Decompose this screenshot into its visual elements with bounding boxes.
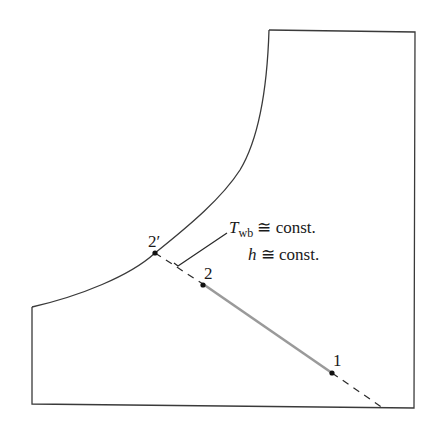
saturation-curve	[32, 30, 269, 307]
chart-outline	[32, 30, 415, 408]
point-label-1: 1	[333, 351, 342, 370]
dashed-line-upper	[155, 253, 203, 284]
state-point-2prime	[152, 250, 157, 255]
annotation-leader-line	[174, 233, 227, 266]
point-label-2prime: 2′	[148, 232, 160, 251]
annotation-twb: Twb ≅ const.	[229, 218, 316, 240]
state-point-2	[200, 282, 205, 287]
psychrometric-diagram: 2′ 2 1 Twb ≅ const. h ≅ const.	[0, 0, 443, 429]
process-line	[203, 284, 332, 373]
point-label-2: 2	[204, 264, 213, 283]
dashed-line-lower	[332, 373, 383, 408]
state-point-1	[329, 370, 334, 375]
annotation-h: h ≅ const.	[248, 245, 319, 264]
